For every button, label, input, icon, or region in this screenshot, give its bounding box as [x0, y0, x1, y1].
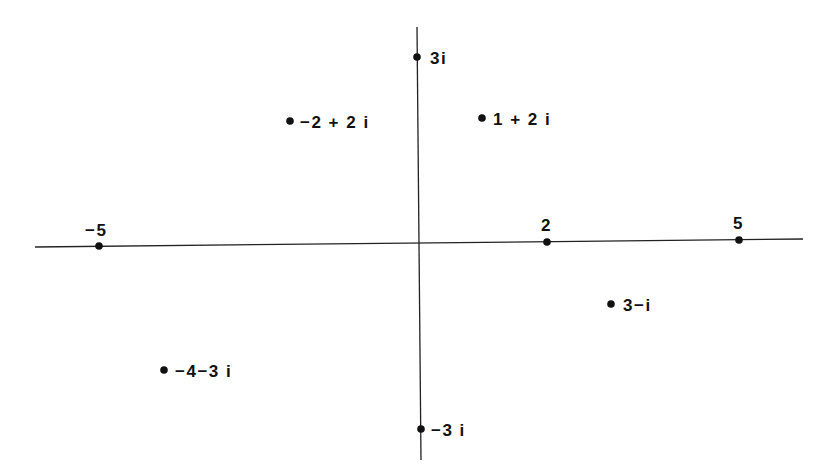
point-neg5: −5 — [85, 221, 107, 250]
svg-text:5: 5 — [733, 214, 744, 233]
point-neg4-minus-3i: −4−3 i — [160, 362, 232, 381]
svg-text:−3 i: −3 i — [431, 421, 466, 440]
svg-text:1 + 2 i: 1 + 2 i — [493, 110, 551, 129]
point-3i: 3i — [413, 49, 447, 68]
svg-text:3−i: 3−i — [623, 296, 652, 315]
svg-text:−2 + 2 i: −2 + 2 i — [300, 113, 370, 132]
point-3-minus-i: 3−i — [607, 296, 651, 315]
point-neg2-plus-2i: −2 + 2 i — [286, 113, 369, 132]
svg-text:−4−3 i: −4−3 i — [175, 362, 232, 381]
svg-text:−5: −5 — [85, 221, 107, 240]
svg-text:3i: 3i — [430, 49, 447, 68]
point-1-plus-2i: 1 + 2 i — [478, 110, 551, 129]
point-neg3i: −3 i — [417, 421, 466, 440]
complex-plane: 3i −2 + 2 i 1 + 2 i −5 2 5 3−i −4−3 i −3… — [0, 0, 829, 476]
svg-text:2: 2 — [541, 216, 552, 235]
